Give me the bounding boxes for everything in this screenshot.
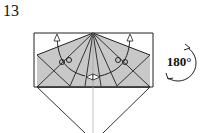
rotation-label: 180° (163, 54, 195, 70)
